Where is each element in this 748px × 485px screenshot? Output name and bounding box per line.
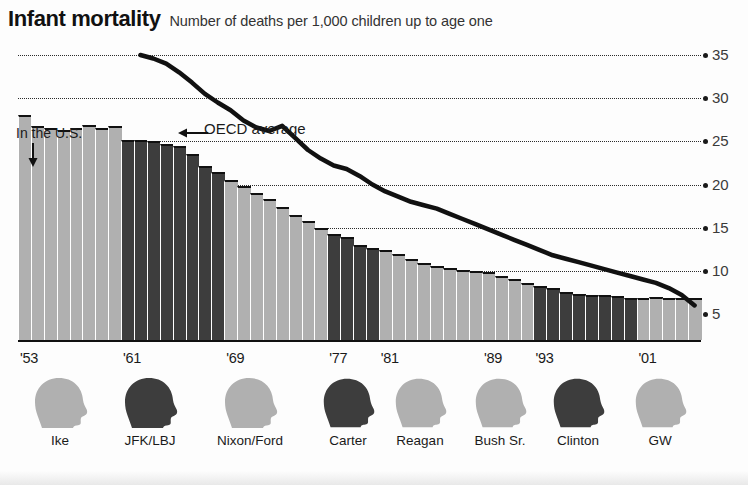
- x-axis-tick-label: '77: [329, 350, 347, 366]
- chart-subtitle: Number of deaths per 1,000 children up t…: [170, 13, 493, 29]
- president-jfk-lbj: JFK/LBJ: [98, 376, 202, 448]
- plot-area: 3530252015105 In the U.S. OECD average: [0, 40, 748, 340]
- chart-header: Infant mortality Number of deaths per 1,…: [8, 6, 493, 32]
- president-silhouettes: IkeJFK/LBJNixon/FordCarterReaganBush Sr.…: [0, 376, 748, 456]
- president-clinton: Clinton: [538, 376, 618, 448]
- president-nixon-ford: Nixon/Ford: [195, 376, 305, 448]
- x-axis-tick-label: '53: [20, 350, 38, 366]
- president-label: Clinton: [538, 433, 618, 448]
- x-axis: '53'61'69'77'81'89'93'01: [0, 348, 748, 370]
- president-label: Nixon/Ford: [195, 433, 305, 448]
- president-silhouette-icon: [214, 376, 286, 428]
- president-gw: GW: [625, 376, 695, 448]
- oecd-annotation-label: OECD average: [204, 120, 306, 137]
- president-label: Ike: [12, 433, 108, 448]
- president-silhouette-icon: [469, 376, 531, 428]
- president-label: Carter: [309, 433, 387, 448]
- us-annotation-label: In the U.S.: [16, 125, 82, 141]
- oecd-average-line: [0, 40, 748, 340]
- x-axis-tick-label: '01: [639, 350, 657, 366]
- president-silhouette-icon: [629, 376, 691, 428]
- left-arrow-icon: [178, 126, 208, 140]
- president-silhouette-icon: [389, 376, 451, 428]
- oecd-average-polyline: [140, 55, 694, 305]
- president-label: Reagan: [378, 433, 462, 448]
- president-label: JFK/LBJ: [98, 433, 202, 448]
- page-edge-shadow: [0, 471, 748, 485]
- president-reagan: Reagan: [378, 376, 462, 448]
- x-axis-baseline: [18, 340, 701, 342]
- president-silhouette-icon: [547, 376, 609, 428]
- president-label: Bush Sr.: [458, 433, 542, 448]
- president-silhouette-icon: [28, 376, 92, 428]
- down-arrow-icon: [26, 143, 40, 167]
- x-axis-tick-label: '89: [484, 350, 502, 366]
- x-axis-tick-label: '69: [226, 350, 244, 366]
- president-bush-sr: Bush Sr.: [458, 376, 542, 448]
- x-axis-tick-label: '61: [123, 350, 141, 366]
- page-title: Infant mortality: [8, 6, 161, 32]
- president-silhouette-icon: [111, 376, 189, 428]
- president-carter: Carter: [309, 376, 387, 448]
- president-label: GW: [625, 433, 695, 448]
- president-ike: Ike: [12, 376, 108, 448]
- infographic-chart: Infant mortality Number of deaths per 1,…: [0, 0, 748, 485]
- president-silhouette-icon: [317, 376, 379, 428]
- x-axis-tick-label: '93: [535, 350, 553, 366]
- x-axis-tick-label: '81: [381, 350, 399, 366]
